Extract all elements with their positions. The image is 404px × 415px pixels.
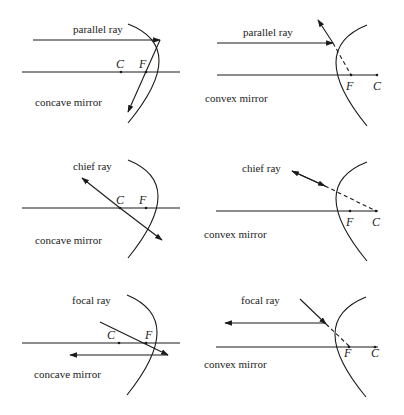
center-point [120,71,123,74]
center-point [375,210,378,213]
chief-ray-reflected [292,171,325,186]
label-C: C [373,79,382,93]
label-F: F [144,328,153,342]
mirror-label: convex mirror [204,358,267,370]
virtual-extension [325,186,376,211]
center-point [376,74,379,77]
ray-label: chief ray [242,162,281,174]
concave-mirror-arc [128,24,159,123]
panel-concave-focal: C F focal ray concave mirror [22,294,180,395]
label-F: F [345,215,354,229]
label-C: C [116,193,125,207]
label-C: C [107,328,116,342]
concave-mirror-arc [127,295,157,395]
mirror-label: concave mirror [35,96,102,108]
focal-point [145,71,148,74]
ray-label: chief ray [73,160,112,172]
label-F: F [138,193,147,207]
mirror-label: convex mirror [204,228,267,240]
focal-ray-incident [300,299,326,324]
panel-convex-chief: F C chief ray convex mirror [204,162,381,261]
label-C: C [372,215,381,229]
label-C: C [116,57,125,71]
center-point [119,207,122,210]
chief-ray-reflected [82,178,120,208]
mirror-label: concave mirror [35,234,102,246]
panel-convex-parallel: F C parallel ray convex mirror [205,20,382,126]
ray-label: parallel ray [73,23,123,35]
concave-mirror-arc [128,160,158,258]
label-F: F [138,57,147,71]
label-F: F [345,79,354,93]
focal-point [350,74,353,77]
ray-label: focal ray [241,294,280,306]
virtual-extension [326,324,349,346]
focal-point [349,210,352,213]
label-F: F [343,346,352,360]
ray-label: focal ray [72,294,111,306]
panel-concave-parallel: C F parallel ray concave mirror [22,23,180,123]
panel-convex-focal: F C focal ray convex mirror [204,294,380,397]
focal-point [145,342,148,345]
reflected-ray [318,20,333,43]
mirror-label: convex mirror [205,92,268,104]
label-C: C [371,346,380,360]
center-point [118,342,121,345]
focal-point [145,207,148,210]
mirror-ray-diagrams: C F parallel ray concave mirror F C para… [0,0,404,415]
mirror-label: concave mirror [34,368,101,380]
panel-concave-chief: C F chief ray concave mirror [22,160,180,258]
ray-label: parallel ray [243,26,293,38]
